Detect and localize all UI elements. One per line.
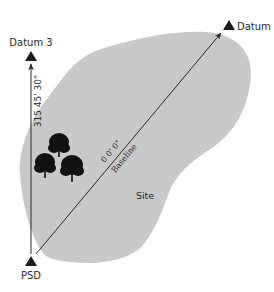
site-diagram: Datum 3 Datum 2 PSD 315 45' 30" 0 0' 0" … xyxy=(0,0,274,292)
site-label: Site xyxy=(136,190,154,201)
psd-marker-icon xyxy=(25,256,37,266)
datum2-marker-icon xyxy=(223,20,235,30)
azimuth-label: 315 45' 30" xyxy=(33,75,43,127)
psd-label: PSD xyxy=(21,270,41,281)
datum3-marker-icon xyxy=(25,51,37,61)
datum2-label: Datum 2 xyxy=(237,21,274,32)
datum3-label: Datum 3 xyxy=(9,37,52,48)
